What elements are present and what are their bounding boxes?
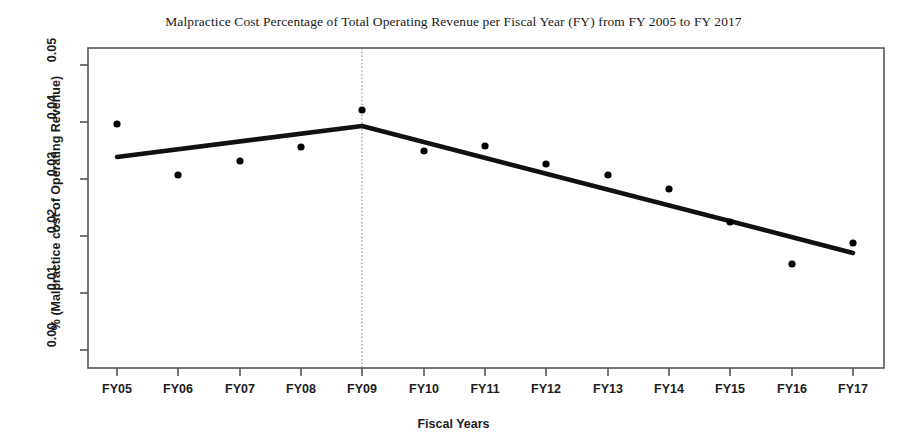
data-point-fy11 xyxy=(481,142,488,149)
plot-area xyxy=(0,0,907,446)
data-point-fy05 xyxy=(113,120,120,127)
data-point-fy09 xyxy=(358,106,365,113)
data-point-fy08 xyxy=(297,143,304,150)
data-point-fy14 xyxy=(665,185,672,192)
bottom-caption-fragment xyxy=(60,440,860,446)
data-point-fy07 xyxy=(236,157,243,164)
data-point-fy13 xyxy=(604,171,611,178)
data-point-fy15 xyxy=(726,218,733,225)
y-axis-ticks xyxy=(80,65,88,350)
data-point-fy12 xyxy=(542,160,549,167)
plot-frame xyxy=(88,48,884,368)
data-point-fy16 xyxy=(788,260,795,267)
data-point-fy06 xyxy=(174,171,181,178)
chart-figure: Malpractice Cost Percentage of Total Ope… xyxy=(0,0,907,446)
x-axis-ticks xyxy=(117,368,853,376)
data-point-fy17 xyxy=(849,239,856,246)
data-points xyxy=(113,106,856,267)
data-point-fy10 xyxy=(420,147,427,154)
